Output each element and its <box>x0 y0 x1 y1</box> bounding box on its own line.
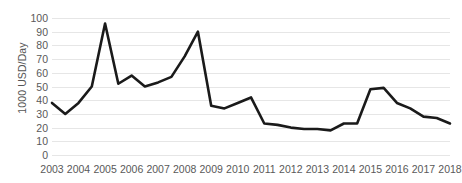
x-axis-tick-labels: 2003200420052006200720082009201020112012… <box>52 162 450 178</box>
y-axis-tick-label: 80 <box>22 40 48 50</box>
gridline <box>52 155 450 156</box>
x-axis-tick-label: 2010 <box>226 162 249 176</box>
y-axis-tick-label: 10 <box>22 136 48 146</box>
x-axis-tick-label: 2009 <box>200 162 223 176</box>
plot-area <box>52 18 450 155</box>
x-axis-tick-label: 2004 <box>67 162 90 176</box>
x-axis-tick-label: 2016 <box>385 162 408 176</box>
x-axis-tick-label: 2018 <box>438 162 461 176</box>
y-axis-tick-label: 40 <box>22 95 48 105</box>
x-axis-tick-label: 2007 <box>146 162 169 176</box>
x-axis-tick-label: 2014 <box>332 162 355 176</box>
x-axis-tick-label: 2013 <box>306 162 329 176</box>
y-axis-tick-label: 100 <box>22 13 48 23</box>
y-axis-tick-label: 0 <box>22 150 48 160</box>
y-axis-tick-label: 30 <box>22 109 48 119</box>
y-axis-tick-label: 90 <box>22 27 48 37</box>
x-axis-tick-label: 2012 <box>279 162 302 176</box>
series-line-1000-usd-per-day <box>52 18 450 155</box>
x-axis-tick-label: 2006 <box>120 162 143 176</box>
y-axis-tick-label: 70 <box>22 54 48 64</box>
series-polyline <box>52 23 450 130</box>
y-axis-tick-label: 60 <box>22 68 48 78</box>
x-axis-tick-label: 2003 <box>40 162 63 176</box>
x-axis-tick-label: 2017 <box>412 162 435 176</box>
x-axis-tick-label: 2005 <box>93 162 116 176</box>
y-axis-tick-labels: 1009080706050403020100 <box>22 12 48 160</box>
y-axis-tick-label: 20 <box>22 123 48 133</box>
y-axis-tick-label: 50 <box>22 82 48 92</box>
x-axis-tick-label: 2015 <box>359 162 382 176</box>
x-axis-tick-label: 2011 <box>253 162 276 176</box>
x-axis-tick-label: 2008 <box>173 162 196 176</box>
